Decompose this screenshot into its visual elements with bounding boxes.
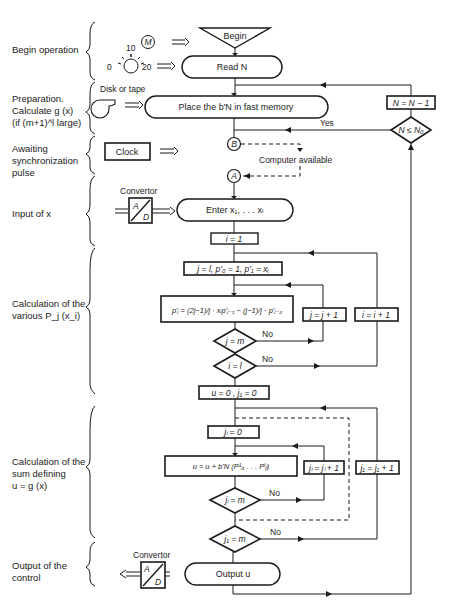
read-n-label: Read N <box>217 62 248 72</box>
j1-compare-label: j₁ = m <box>223 534 245 544</box>
motor-label: M <box>144 37 152 47</box>
i-init-label: i = 1 <box>226 234 243 244</box>
convertor-in-a: A <box>132 201 139 211</box>
dial-tick-10: 10 <box>126 43 136 53</box>
convertor-in-title: Convertor <box>120 186 157 196</box>
n-compare-label: N ≤ N₀ <box>398 125 424 135</box>
yes-label: Yes <box>320 118 334 128</box>
connector-b-label: B <box>231 139 237 149</box>
clock-label: Clock <box>116 147 139 157</box>
place-memory-label: Place the b'N in fast memory <box>179 102 294 112</box>
j1-increment-label: j₁ = j₁ + 1 <box>359 463 394 473</box>
begin-label: Begin <box>223 31 246 41</box>
output-u-label: Output u <box>216 569 251 579</box>
disk-tape-icon <box>91 100 115 118</box>
computer-available-label: Computer available <box>259 155 333 165</box>
convertor-out-d: D <box>155 577 161 587</box>
jl-increment-label: jₗ = jₗ + 1 <box>308 463 339 473</box>
dial-tick-0: 0 <box>107 62 112 72</box>
sum-label: u = u + b'N (P¹ⱼ₁ . . . Pˡⱼₗ) <box>193 462 270 471</box>
i-compare-label: i = l <box>228 361 243 371</box>
convertor-out-a: A <box>143 564 150 574</box>
j-increment-label: j = j + 1 <box>309 310 338 320</box>
dial-tick-20: 20 <box>142 62 152 72</box>
convertor-out-title: Convertor <box>133 550 170 560</box>
disk-tape-label: Disk or tape <box>100 84 146 94</box>
no-label-3: No <box>269 488 280 498</box>
i-increment-label: i = i + 1 <box>362 310 390 320</box>
no-label-1: No <box>262 329 273 339</box>
j-compare-label: j = m <box>225 336 245 346</box>
flowchart-canvas: Begin Read N Place the b'N in fast memor… <box>0 0 458 616</box>
convertor-in-d: D <box>143 212 149 222</box>
enter-x-label: Enter x₁, . . . xₗ <box>206 205 264 215</box>
dial-icon <box>118 54 144 73</box>
no-label-2: No <box>262 354 273 364</box>
n-decrement-label: N = N − 1 <box>393 98 430 108</box>
jl-compare-label: jₗ = m <box>224 495 245 505</box>
u-init-label: u = 0 , j₁ = 0 <box>211 388 256 398</box>
jl-init-label: jₗ = 0 <box>223 427 242 437</box>
phase-braces <box>86 22 95 586</box>
no-label-4: No <box>270 527 281 537</box>
connector-a-label: A <box>230 171 237 181</box>
recurrence-label: p'ⱼ = (2j−1)/j · xᵢp'ⱼ₋₁ − (j−1)/j · p'ⱼ… <box>171 306 282 315</box>
j-init-label: j = l, p'₀ = 1, p'₁ = xᵢ <box>196 264 269 274</box>
